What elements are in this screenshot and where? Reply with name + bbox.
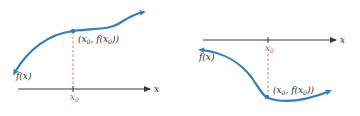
x-axis-label: x [154, 84, 159, 94]
right-panel: (x0, f(x0)) f(x) x x0 [198, 35, 345, 101]
function-label: f(x) [198, 52, 215, 62]
point-x0 [71, 29, 75, 33]
x0-label: x0 [70, 92, 79, 103]
x0-label: x0 [265, 43, 274, 54]
point-label: (x0, f(x0)) [273, 85, 314, 96]
diagram-canvas: (x0, f(x0)) f(x) x x0 (x0, f(x0)) f(x) x… [0, 0, 360, 116]
x-axis-label: x [340, 35, 345, 45]
point-label: (x0, f(x0)) [78, 34, 119, 45]
function-label: f(x) [15, 71, 32, 81]
point-x0 [265, 95, 269, 99]
left-panel: (x0, f(x0)) f(x) x x0 [15, 12, 159, 103]
